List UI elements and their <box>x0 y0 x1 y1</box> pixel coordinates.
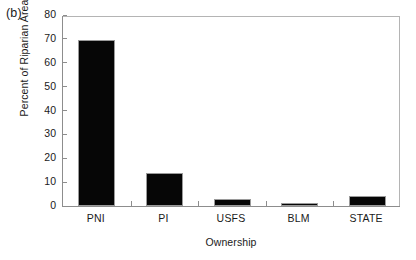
y-tick-mark <box>63 206 67 207</box>
x-axis-title: Ownership <box>62 236 400 248</box>
figure-panel: (b) Percent of Riparian Area 01020304050… <box>0 0 416 260</box>
plot-area: 01020304050607080 <box>62 16 400 207</box>
bar-pni <box>78 40 115 206</box>
y-tick-label: 0 <box>50 199 56 212</box>
x-category-label-state: STATE <box>326 212 406 224</box>
bar-state <box>349 196 386 206</box>
y-tick-mark <box>63 15 67 16</box>
y-tick-label: 80 <box>44 8 56 21</box>
y-tick-label: 20 <box>44 151 56 164</box>
y-tick-label: 60 <box>44 56 56 69</box>
y-tick-label: 50 <box>44 80 56 93</box>
y-axis-title: Percent of Riparian Area <box>18 0 30 138</box>
bar-usfs <box>214 199 251 206</box>
bar-pi <box>146 173 183 206</box>
bar-blm <box>281 203 318 206</box>
y-tick-label: 70 <box>44 32 56 45</box>
y-tick-label: 10 <box>44 175 56 188</box>
y-tick-label: 40 <box>44 104 56 117</box>
bar-series <box>63 17 399 206</box>
y-tick-label: 30 <box>44 127 56 140</box>
